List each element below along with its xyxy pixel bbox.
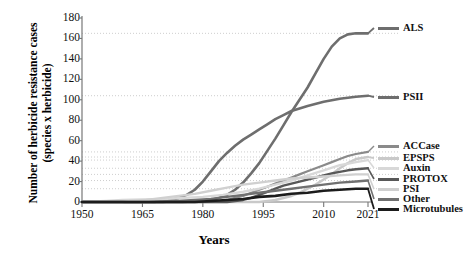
legend-leader-lines	[368, 28, 374, 209]
legend-leader-epsps	[368, 157, 374, 158]
series-line-psii	[82, 96, 368, 202]
series-line-auxin	[82, 160, 368, 202]
legend-label-accase: ACCase	[403, 140, 440, 152]
chart-figure: Number of herbicide resistance cases (sp…	[0, 0, 475, 270]
data-series-group	[82, 33, 368, 202]
legend-swatch-other	[378, 198, 399, 201]
legend-swatch-microtubules	[378, 208, 399, 211]
legend-swatch-psi	[378, 188, 399, 191]
gridlines	[82, 33, 400, 188]
legend-leader-accase	[368, 146, 374, 152]
legend-leader-psii	[368, 96, 374, 97]
legend-leader-als	[368, 28, 374, 33]
legend-swatch-accase	[378, 145, 399, 148]
legend-swatch-protox	[378, 178, 399, 181]
legend-swatch-als	[378, 27, 399, 30]
legend-label-psii: PSII	[403, 91, 423, 103]
legend-swatch-epsps	[378, 157, 399, 160]
legend-label-als: ALS	[403, 22, 423, 34]
plot-area	[0, 0, 475, 270]
legend-label-microtubules: Microtubules	[403, 203, 463, 215]
legend-leader-auxin	[368, 160, 374, 168]
legend-swatch-psii	[378, 96, 399, 99]
legend-swatch-auxin	[378, 167, 399, 170]
